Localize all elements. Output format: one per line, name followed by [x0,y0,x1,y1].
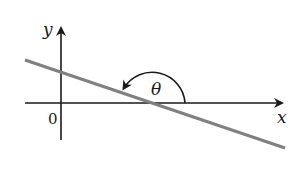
diagram-canvas: y x 0 θ [0,0,301,170]
angle-label: θ [151,79,161,99]
y-axis-label: y [42,19,53,39]
x-axis-label: x [277,107,287,127]
origin-label: 0 [48,110,58,128]
